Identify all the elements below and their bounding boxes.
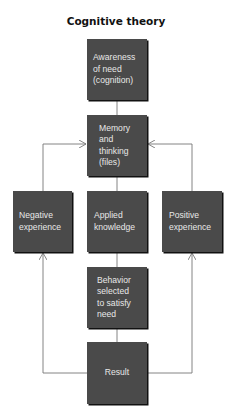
box-positive-experience: Positive experience [162,191,222,252]
box-applied-knowledge: Applied knowledge [87,191,147,252]
box-memory-label: Memory and thinking (files) [99,123,130,169]
arrow-result-to-negative [43,253,87,373]
box-negative-label: Negative experience [19,210,61,233]
diagram-title: Cognitive theory [0,15,232,27]
box-result-label: Result [105,367,129,379]
arrow-negative-to-memory [43,144,86,191]
box-result: Result [87,342,147,404]
box-awareness-label: Awareness of need (cognition) [93,52,135,87]
box-behavior-label: Behavior selected to satisfy need [97,275,131,321]
box-applied-label: Applied knowledge [94,210,135,233]
box-behavior-selected: Behavior selected to satisfy need [87,267,147,328]
arrow-positive-to-memory [148,144,192,191]
box-positive-label: Positive experience [169,210,211,233]
box-negative-experience: Negative experience [13,191,72,252]
box-awareness-of-need: Awareness of need (cognition) [87,39,147,100]
arrow-result-to-positive [147,253,192,373]
box-memory-and-thinking: Memory and thinking (files) [87,115,147,176]
